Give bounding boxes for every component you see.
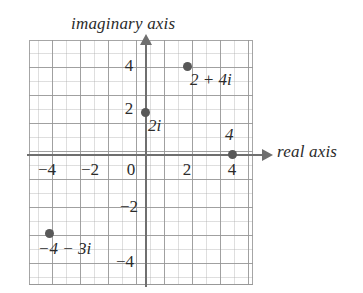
real-axis-title: real axis — [277, 142, 337, 162]
data-point-label-2i: 2i — [148, 116, 161, 136]
data-point-label-4: 4 — [225, 125, 234, 145]
data-point-label-minus-4-minus-3i: −4 − 3i — [38, 239, 91, 259]
x-tick-label--4: −4 — [30, 160, 64, 180]
imaginary-axis-title: imaginary axis — [71, 14, 175, 34]
y-tick-label-4: 4 — [118, 56, 140, 76]
data-point-label-2-plus-4i: 2 + 4i — [190, 70, 232, 90]
imaginary-axis-line — [145, 44, 147, 287]
y-tick-label-2: 2 — [118, 99, 140, 119]
real-axis-arrow-icon — [262, 149, 273, 161]
data-point-minus-4-minus-3i[interactable] — [45, 229, 54, 238]
y-tick-label--4: −4 — [110, 252, 140, 272]
x-tick-label--2: −2 — [73, 160, 107, 180]
data-point-4[interactable] — [228, 150, 237, 159]
figure-canvas: imaginary axis real axis −4 −2 0 2 4 4 2… — [0, 0, 363, 293]
x-tick-label-4: 4 — [221, 160, 243, 180]
x-tick-label-2: 2 — [176, 160, 198, 180]
imaginary-axis-arrow-icon — [140, 34, 152, 45]
x-tick-label-0: 0 — [120, 160, 142, 180]
y-tick-label--2: −2 — [118, 197, 140, 217]
